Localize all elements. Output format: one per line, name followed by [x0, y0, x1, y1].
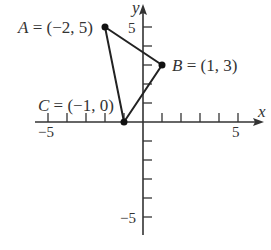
point-c [121, 119, 128, 126]
y-axis-label: y [130, 0, 140, 17]
point-c-label: C = (−1, 0) [38, 96, 114, 115]
y-axis: 5 −5 y [120, 0, 152, 235]
x-tick-5: 5 [232, 124, 240, 140]
x-tick-neg5: −5 [38, 124, 54, 140]
y-tick-5: 5 [128, 20, 136, 36]
point-a [102, 24, 109, 31]
point-a-label: A = (−2, 5) [17, 18, 93, 37]
point-b-label: B = (1, 3) [172, 56, 237, 75]
x-axis-label: x [257, 102, 266, 121]
y-tick-neg5: −5 [120, 210, 136, 226]
point-b [159, 62, 166, 69]
coordinate-plane: −5 5 x 5 −5 y A = (−2, 5) B = (1, 3) C =… [0, 0, 271, 250]
